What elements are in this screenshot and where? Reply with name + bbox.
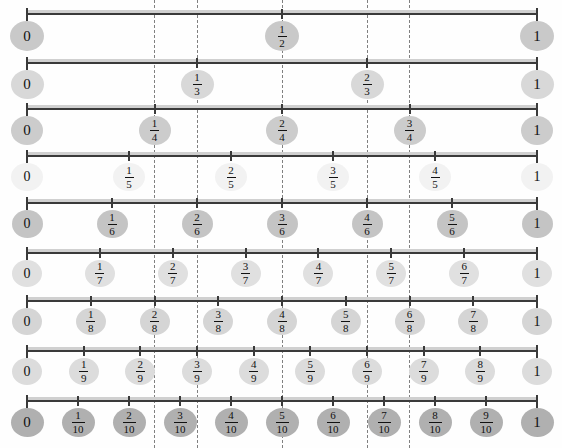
tick-eighths-4 [281,296,283,306]
label-tenths-5-over-10: 510 [266,408,299,437]
label-eighths-3-over-8: 38 [203,308,233,335]
tick-eighths-6 [409,296,411,306]
label-sixths-whole-0: 0 [12,210,43,238]
label-sixths-1-over-6: 16 [97,210,128,238]
tick-ninths-4 [253,346,255,356]
tick-tenths-10 [536,395,538,408]
tick-eighths-0 [26,295,28,308]
fraction-stack: 36 [278,212,287,237]
label-tenths-whole-0: 0 [11,408,44,437]
tick-fourths-4 [536,103,538,116]
label-sixths-whole-1: 1 [522,210,553,238]
tick-sevenths-3 [245,248,247,258]
tick-eighths-5 [345,296,347,306]
tick-sevenths-5 [390,248,392,258]
tick-thirds-2 [366,58,368,68]
tick-fifths-5 [536,150,538,163]
tick-sixths-4 [366,198,368,208]
label-sevenths-2-over-7: 27 [158,260,188,287]
fraction-stack: 38 [214,309,223,334]
fraction-denominator: 9 [250,373,258,384]
fraction-denominator: 4 [406,132,414,143]
fraction-stack: 28 [150,309,159,334]
label-sevenths-5-over-7: 57 [376,260,406,287]
label-fourths-1-over-4: 14 [139,116,171,145]
tick-sixths-1 [111,198,113,208]
tick-ninths-3 [196,346,198,356]
fraction-denominator: 10 [123,424,136,435]
fraction-denominator: 10 [480,424,493,435]
label-thirds-2-over-3: 23 [351,70,384,99]
whole-number-text: 0 [24,267,31,281]
fraction-denominator: 7 [315,275,323,286]
fraction-numerator: 5 [388,261,396,272]
tick-eighths-7 [472,296,474,306]
axis-line-fifths [27,155,537,157]
tick-ninths-5 [309,346,311,356]
tick-sixths-0 [26,197,28,210]
fraction-stack: 49 [249,359,258,384]
tick-tenths-8 [434,396,436,406]
tick-ninths-9 [536,345,538,358]
fraction-numerator: 5 [342,309,350,320]
tick-thirds-3 [536,57,538,70]
fraction-denominator: 5 [431,179,439,190]
fraction-numerator: 9 [482,410,490,421]
label-sixths-4-over-6: 46 [352,210,383,238]
fraction-denominator: 4 [151,132,159,143]
label-sixths-5-over-6: 56 [437,210,468,238]
fraction-denominator: 10 [378,424,391,435]
fraction-numerator: 4 [250,359,258,370]
fraction-stack: 24 [278,118,287,143]
fraction-numerator: 1 [96,261,104,272]
label-tenths-3-over-10: 310 [164,408,197,437]
tick-ninths-2 [139,346,141,356]
fraction-denominator: 5 [125,179,133,190]
label-tenths-9-over-10: 910 [470,408,503,437]
fraction-stack: 67 [460,261,469,286]
fraction-denominator: 10 [327,424,340,435]
fraction-stack: 25 [227,165,236,190]
fraction-stack: 79 [419,359,428,384]
label-fifths-4-over-5: 45 [419,163,451,191]
label-fifths-whole-1: 1 [521,163,553,191]
tick-sevenths-2 [172,248,174,258]
fraction-numerator: 3 [406,118,414,129]
fraction-denominator: 3 [363,86,371,97]
tick-tenths-7 [383,396,385,406]
tick-tenths-4 [230,396,232,406]
label-thirds-whole-0: 0 [11,70,44,99]
tick-eighths-1 [90,296,92,306]
label-fifths-1-over-5: 15 [113,163,145,191]
fraction-numerator: 4 [278,309,286,320]
fraction-stack: 34 [405,118,414,143]
benchmark-line-three-quarters [409,0,410,448]
fraction-denominator: 9 [137,373,145,384]
fraction-numerator: 1 [80,359,88,370]
fraction-stack: 15 [125,165,134,190]
fraction-stack: 59 [306,359,315,384]
fraction-stack: 89 [476,359,485,384]
label-tenths-1-over-10: 110 [62,408,95,437]
tick-fifths-3 [332,151,334,161]
fraction-denominator: 7 [96,275,104,286]
label-fourths-3-over-4: 34 [394,116,426,145]
fraction-denominator: 7 [388,275,396,286]
fraction-numerator: 1 [74,410,82,421]
label-eighths-7-over-8: 78 [458,308,488,335]
fraction-stack: 56 [448,212,457,237]
fraction-denominator: 6 [363,226,371,237]
fraction-numerator: 6 [460,261,468,272]
axis-line-ninths [27,350,537,352]
fraction-numerator: 5 [448,212,456,223]
fraction-denominator: 9 [193,373,201,384]
fraction-stack: 210 [123,410,136,435]
label-sevenths-6-over-7: 67 [449,260,479,287]
fraction-denominator: 8 [406,323,414,334]
axis-line-thirds [27,62,537,64]
tick-fifths-0 [26,150,28,163]
fraction-stack: 13 [193,72,202,97]
label-fourths-whole-0: 0 [11,116,43,145]
fraction-stack: 14 [150,118,159,143]
tick-sevenths-0 [26,247,28,260]
